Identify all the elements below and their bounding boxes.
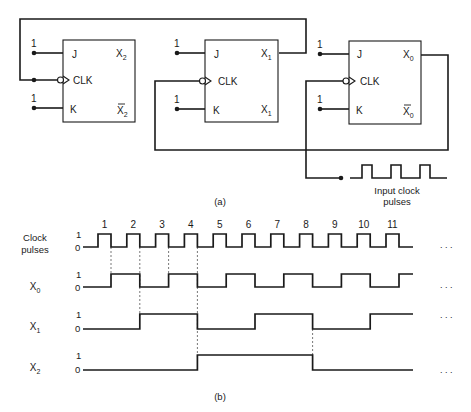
ff0-k-dot (318, 107, 323, 112)
edge-markers (111, 247, 313, 357)
pulse-number-10: 10 (358, 219, 370, 230)
ff1-qbar-label: X1 (261, 104, 272, 117)
ff2-j-level: 1 (31, 38, 37, 49)
pulse-number-2: 2 (131, 219, 137, 230)
pulse-number-8: 8 (303, 219, 309, 230)
signal-label-clock-line1: Clock (23, 232, 47, 243)
ff2-clk-invert-bubble (58, 77, 64, 83)
pulse-number-3: 3 (159, 219, 165, 230)
ff2-q-label: X2 (116, 48, 127, 61)
pulse-number-4: 4 (188, 219, 194, 230)
ff1-j-label: J (214, 49, 219, 60)
ff0-j-label: J (357, 49, 362, 60)
timing-diagram-b: Clock pulses X0 X1 X2 1 0 1 0 1 0 1 0 12… (21, 219, 452, 402)
ff0-qbar-label: X0 (403, 106, 414, 119)
ff0-q-label: X0 (403, 49, 414, 62)
ff2-k-label: K (70, 104, 77, 115)
signal-label-x0: X0 (30, 281, 41, 294)
signal-label-x2: X2 (30, 362, 41, 375)
pulse-number-7: 7 (275, 219, 281, 230)
ff1-j-level: 1 (174, 38, 180, 49)
pulse-number-1: 1 (102, 219, 108, 230)
ff0-j-level: 1 (317, 39, 323, 50)
waveform-clock (83, 234, 413, 247)
x2-level-0: 0 (75, 364, 80, 375)
ff2-j-dot (32, 51, 37, 56)
wire-x0-to-ff1-clk (155, 55, 448, 150)
ff2-qbar-label: X2 (117, 105, 128, 118)
input-clock-waveform (350, 165, 447, 178)
ff1-clk-label: CLK (218, 76, 238, 87)
ff1-j-dot (175, 51, 180, 56)
waveform-x1 (83, 314, 413, 329)
ff1-k-label: K (213, 105, 220, 116)
ellipsis-x2: . . . (440, 365, 453, 375)
x0-level-1: 1 (76, 269, 81, 280)
clock-input-dot (339, 176, 344, 181)
signal-label-x1: X1 (30, 321, 41, 334)
junction-dot (32, 78, 37, 83)
ff2-clk-label: CLK (73, 75, 93, 86)
ff1-k-dot (175, 107, 180, 112)
x0-level-0: 0 (75, 282, 80, 293)
pulse-numbers: 1234567891011 (102, 219, 398, 230)
clock-level-1: 1 (76, 229, 81, 240)
x2-level-1: 1 (76, 350, 81, 361)
input-clock-label-line1: Input clock (374, 185, 420, 196)
pulse-number-11: 11 (387, 219, 398, 230)
circuit-a: 1 1 J CLK K X2 X2 1 1 J CLK K (20, 19, 448, 207)
waveforms (83, 234, 413, 370)
ff0-j-dot (318, 52, 323, 57)
flip-flop-1: 1 1 J CLK K X1 X1 (174, 38, 278, 122)
ff1-q-label: X1 (261, 48, 272, 61)
pulse-number-9: 9 (332, 219, 338, 230)
caption-b: (b) (214, 391, 226, 402)
ellipsis-x1: . . . (440, 310, 453, 320)
pulse-number-6: 6 (246, 219, 252, 230)
waveform-x2 (83, 355, 413, 370)
clock-level-0: 0 (75, 242, 80, 253)
signal-label-clock-line2: pulses (21, 244, 49, 255)
caption-a: (a) (214, 196, 226, 207)
waveform-x0 (83, 274, 413, 287)
ellipsis-x0: . . . (440, 280, 453, 290)
ff0-clk-invert-bubble (343, 78, 349, 84)
pulse-number-5: 5 (217, 219, 223, 230)
input-clock-label-line2: pulses (383, 196, 411, 207)
x1-level-1: 1 (76, 309, 81, 320)
counter-diagram: 1 1 J CLK K X2 X2 1 1 J CLK K (0, 0, 471, 412)
ff2-k-dot (32, 106, 37, 111)
ff0-k-label: K (356, 105, 363, 116)
ff2-j-label: J (72, 49, 77, 60)
wire-clock-to-ff0-clk (306, 81, 343, 178)
x1-level-0: 0 (75, 323, 80, 334)
ff0-k-level: 1 (317, 94, 323, 105)
ff2-k-level: 1 (31, 93, 37, 104)
ff1-k-level: 1 (174, 94, 180, 105)
ellipsis-clock: . . . (440, 240, 453, 250)
ff0-clk-triangle (349, 77, 355, 85)
ff1-clk-invert-bubble (200, 78, 206, 84)
ff0-clk-label: CLK (360, 76, 380, 87)
